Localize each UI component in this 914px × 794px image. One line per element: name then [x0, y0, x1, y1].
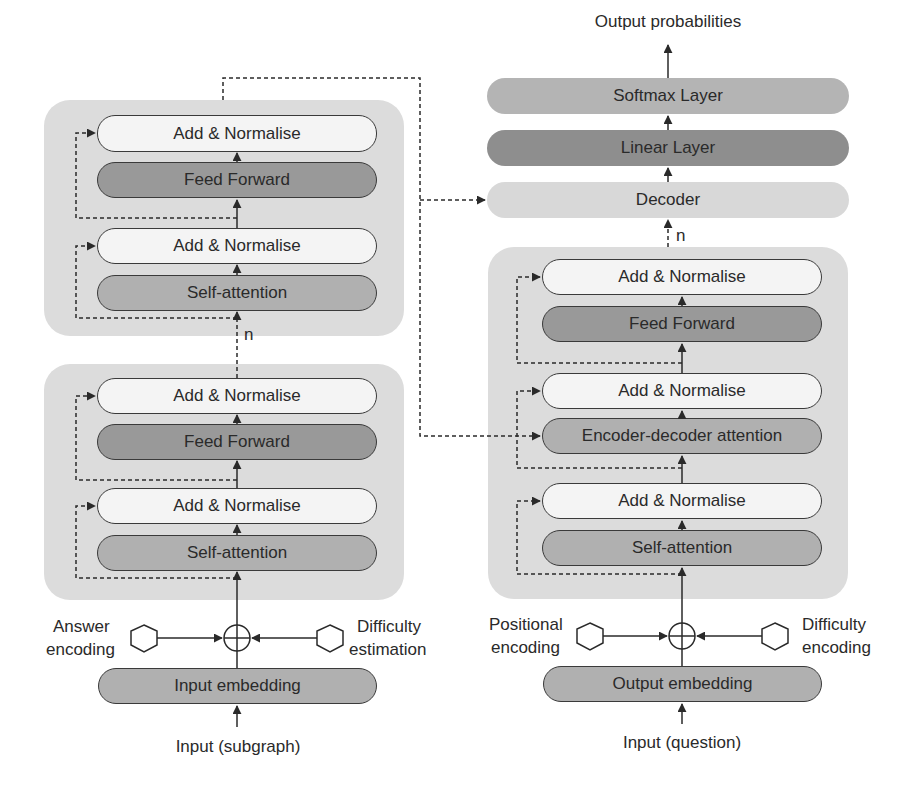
- encoder-sum-icon: [224, 625, 250, 651]
- decoder-sum-icon: [669, 623, 695, 649]
- positional-encoding-label-line1: Positional: [489, 615, 563, 635]
- answer-encoding-label-line1: Answer: [53, 617, 110, 637]
- encoder-bottom-self-attention: Self-attention: [97, 535, 377, 571]
- decoder-self-attention: Self-attention: [542, 530, 822, 566]
- encoder-top-add-normalise-2: Add & Normalise: [97, 115, 377, 152]
- difficulty-encoding-label-line1: Difficulty: [802, 615, 866, 635]
- encoder-bottom-add-normalise-1: Add & Normalise: [97, 488, 377, 524]
- output-probabilities-label: Output probabilities: [568, 12, 768, 32]
- positional-encoding-label-line2: encoding: [491, 638, 560, 658]
- decoder-feed-forward: Feed Forward: [542, 306, 822, 342]
- encoder-top-self-attention: Self-attention: [97, 275, 377, 311]
- answer-encoding-label-line2: encoding: [46, 640, 115, 660]
- output-embedding: Output embedding: [543, 666, 822, 702]
- decoder-add-normalise-1: Add & Normalise: [542, 483, 822, 519]
- difficulty-encoding-hexagon-icon: [762, 623, 788, 650]
- input-question-label: Input (question): [582, 733, 782, 753]
- input-subgraph-label: Input (subgraph): [138, 737, 338, 757]
- decoder-encoder-decoder-attention: Encoder-decoder attention: [542, 418, 822, 454]
- encoder-bottom-feed-forward: Feed Forward: [97, 424, 377, 460]
- positional-encoding-hexagon-icon: [577, 623, 603, 650]
- softmax-layer: Softmax Layer: [487, 78, 849, 114]
- decoder-repeat-label: n: [676, 226, 685, 246]
- difficulty-encoding-label-line2: encoding: [802, 638, 871, 658]
- linear-layer: Linear Layer: [487, 130, 849, 166]
- encoder-top-feed-forward: Feed Forward: [97, 162, 377, 198]
- difficulty-estimation-label-line2: estimation: [349, 640, 426, 660]
- input-embedding: Input embedding: [98, 668, 377, 704]
- difficulty-estimation-label-line1: Difficulty: [357, 617, 421, 637]
- answer-encoding-hexagon-icon: [131, 625, 157, 652]
- decoder-bar: Decoder: [487, 182, 849, 218]
- difficulty-estimation-hexagon-icon: [317, 625, 343, 652]
- encoder-top-add-normalise-1: Add & Normalise: [97, 228, 377, 264]
- encoder-repeat-label: n: [244, 325, 253, 345]
- decoder-add-normalise-2: Add & Normalise: [542, 373, 822, 409]
- encoder-bottom-add-normalise-2: Add & Normalise: [97, 378, 377, 414]
- decoder-add-normalise-3: Add & Normalise: [542, 259, 822, 295]
